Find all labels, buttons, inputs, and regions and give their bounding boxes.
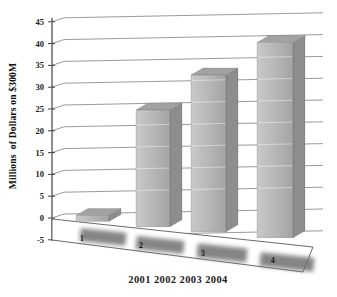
bar-chart-3d-canvas: 454035302520151050-51234 [0, 0, 337, 297]
y-tick-label-0: 0 [40, 213, 44, 223]
y-axis: 454035302520151050-5 [36, 17, 56, 245]
gridline-45 [52, 13, 323, 22]
bar-2003 [191, 68, 238, 232]
y-tick-label--5: -5 [37, 235, 44, 245]
y-tick-label-35: 35 [36, 60, 45, 70]
category-label-2: 2 [139, 241, 143, 250]
y-tick-label-45: 45 [36, 17, 45, 27]
category-label-4: 4 [271, 256, 275, 265]
y-tick-label-30: 30 [36, 82, 45, 92]
x-axis-title: 2001 2002 2003 2004 [128, 274, 227, 285]
y-tick-label-10: 10 [36, 169, 45, 179]
category-label-1: 1 [80, 234, 84, 243]
bar-2004 [257, 35, 305, 237]
y-tick-label-20: 20 [36, 126, 45, 136]
category-label-3: 3 [201, 249, 205, 258]
y-tick-label-40: 40 [36, 39, 45, 49]
bar-2001 [76, 208, 121, 221]
y-tick-label-25: 25 [36, 104, 45, 114]
chart-figure: 454035302520151050-51234 Millions of Dol… [0, 0, 337, 297]
y-axis-title: Millions of Dollars on $300M [8, 63, 18, 189]
y-tick-label-15: 15 [36, 148, 45, 158]
bars [76, 35, 305, 237]
y-tick-label-5: 5 [40, 191, 44, 201]
bar-2002 [136, 103, 182, 227]
